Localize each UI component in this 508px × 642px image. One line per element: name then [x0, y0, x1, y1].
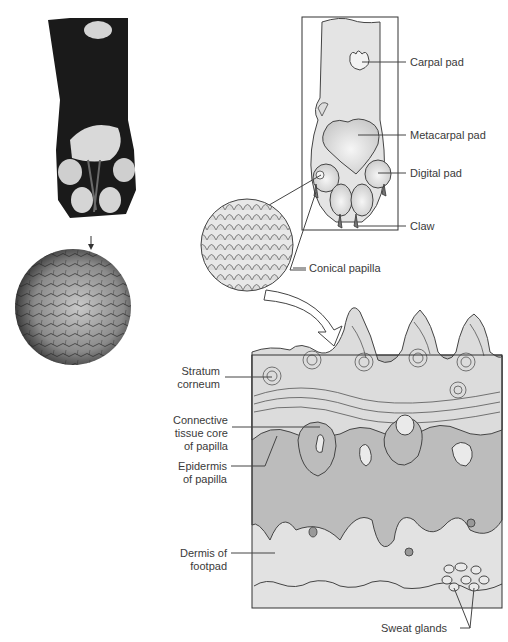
down-arrow-icon — [88, 236, 94, 250]
paw-photo — [48, 18, 136, 218]
label-epidermis-of-papilla: Epidermis of papilla — [150, 460, 227, 486]
label-claw: Claw — [410, 220, 434, 233]
label-dermis-of-footpad: Dermis of footpad — [150, 547, 227, 573]
pad-closeup-photo — [10, 245, 140, 370]
digital-pad-3 — [330, 184, 352, 216]
label-metacarpal-pad: Metacarpal pad — [410, 129, 486, 142]
papilla-magnifier — [200, 198, 295, 293]
label-stratum-corneum: Stratum corneum — [160, 365, 220, 391]
footpad-cross-section — [252, 308, 502, 608]
label-connective-tissue-core: Connective tissue core of papilla — [150, 414, 228, 453]
diagram-canvas — [0, 0, 508, 642]
label-carpal-pad: Carpal pad — [410, 56, 464, 69]
label-sweat-glands: Sweat glands — [381, 622, 447, 635]
label-conical-papilla: Conical papilla — [309, 262, 381, 275]
paw-diagram — [302, 17, 398, 230]
label-digital-pad: Digital pad — [410, 167, 462, 180]
digital-pad-4 — [351, 184, 373, 216]
curved-arrow-icon — [264, 290, 342, 346]
digital-pad-2 — [365, 160, 391, 188]
carpal-pad — [350, 51, 369, 70]
